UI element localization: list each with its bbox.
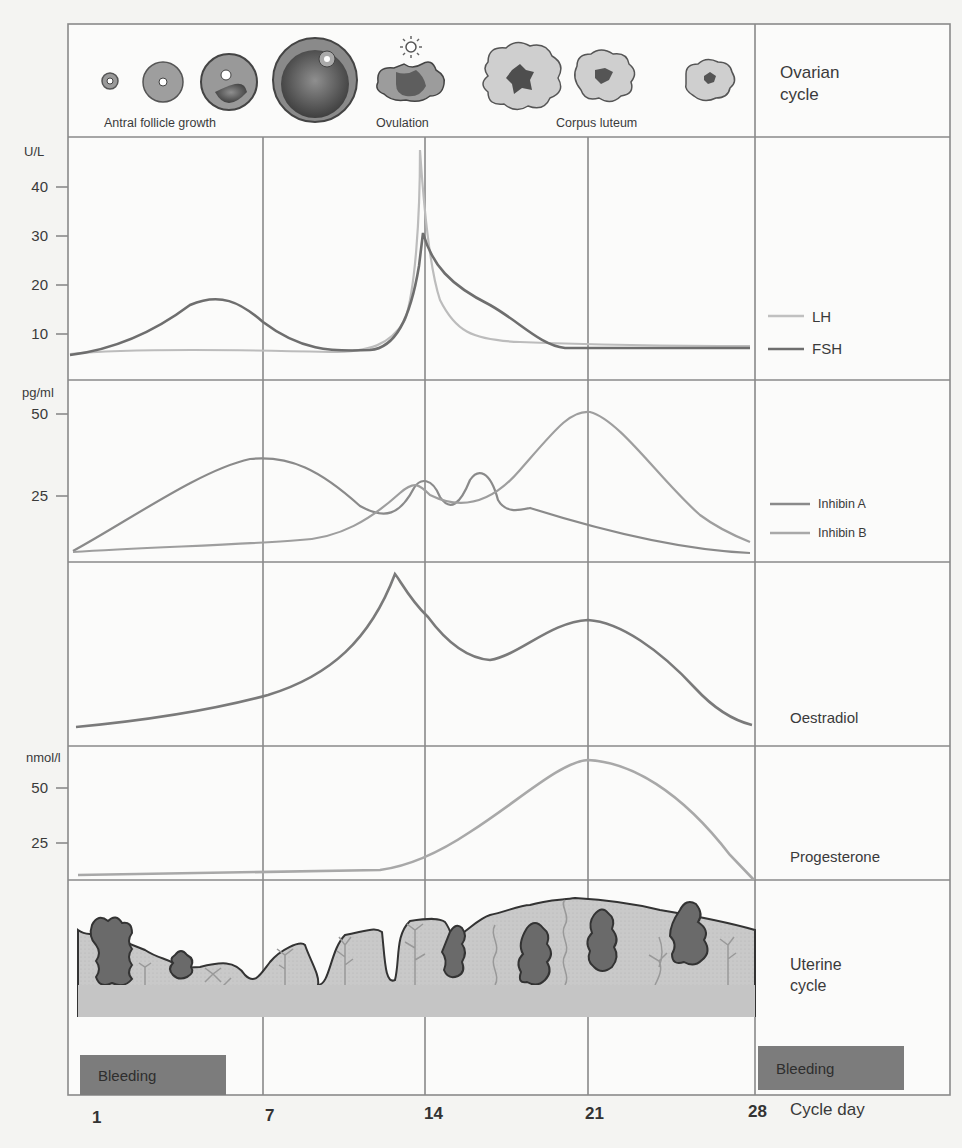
fsh-legend-label: FSH [812,340,842,357]
progesterone-unit: nmol/l [26,750,61,765]
uterine-cycle-title-line1: Uterine [790,956,842,973]
x-tick-7: 7 [265,1106,274,1126]
ovulation-label: Ovulation [376,116,429,130]
lh-legend-label: LH [812,308,831,325]
x-tick-28: 28 [748,1102,767,1122]
y-tick-20: 20 [4,276,48,293]
ovarian-cycle-title-line2: cycle [780,85,819,104]
gonadotrophin-unit: U/L [24,144,44,159]
x-tick-1: 1 [92,1108,101,1128]
inhibin-unit: pg/ml [22,385,54,400]
y-tick-30: 30 [4,227,48,244]
ovarian-cycle-title-line1: Ovarian [780,63,840,82]
corpus-luteum-label: Corpus luteum [556,116,637,130]
inhibin-tick-25: 25 [4,487,48,504]
progesterone-tick-50: 50 [4,779,48,796]
inhibin-a-legend-label: Inhibin A [818,497,866,511]
uterine-cycle-title: Uterine cycle [790,954,842,996]
y-tick-40: 40 [4,178,48,195]
x-axis-label: Cycle day [790,1100,865,1120]
ovarian-cycle-title: Ovarian cycle [780,62,840,106]
oestradiol-label: Oestradiol [790,709,858,726]
uterine-cycle-title-line2: cycle [790,977,826,994]
progesterone-label: Progesterone [790,848,880,865]
inhibin-b-legend-label: Inhibin B [818,526,867,540]
x-tick-14: 14 [424,1104,443,1124]
bleeding-left-label: Bleeding [98,1067,156,1084]
antral-follicle-label: Antral follicle growth [104,116,216,130]
inhibin-tick-50: 50 [4,405,48,422]
progesterone-tick-25: 25 [4,834,48,851]
bleeding-right-label: Bleeding [776,1060,834,1077]
y-tick-10: 10 [4,325,48,342]
x-tick-21: 21 [585,1104,604,1124]
